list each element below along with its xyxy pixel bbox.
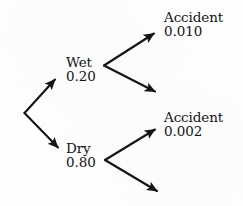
node-probability-wet: 0.20	[66, 70, 96, 84]
node-label-dry: Dry 0.80	[66, 142, 96, 169]
branch-dry-to-accident	[105, 130, 155, 161]
branch-wet-to-accident	[104, 34, 154, 66]
node-label-accident-dry: Accident 0.002	[164, 111, 223, 138]
node-probability-accident-wet: 0.010	[164, 25, 223, 39]
node-probability-accident-dry: 0.002	[164, 125, 223, 139]
node-label-wet: Wet 0.20	[66, 56, 96, 83]
node-probability-dry: 0.80	[66, 156, 96, 170]
node-label-accident-wet: Accident 0.010	[164, 11, 223, 38]
branch-root-to-dry	[25, 113, 59, 148]
branch-dry-to-no-accident	[105, 160, 157, 191]
branch-root-to-wet	[25, 80, 56, 114]
probability-tree-diagram: Wet 0.20 Dry 0.80 Accident 0.010 Acciden…	[0, 0, 243, 206]
branch-wet-to-no-accident	[104, 66, 155, 92]
